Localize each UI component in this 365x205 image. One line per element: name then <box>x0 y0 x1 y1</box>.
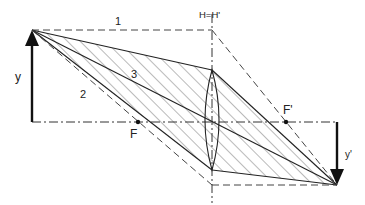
object-arrow <box>25 30 39 122</box>
image-arrow <box>330 122 344 185</box>
ray-3-label: 3 <box>131 68 137 80</box>
front-focal-point <box>136 120 140 124</box>
back-focal-point <box>284 120 288 124</box>
ray-1-label: 1 <box>115 15 121 27</box>
lens-ray-diagram: H=H' 1 2 3 y y' F F' <box>0 0 365 205</box>
image-height-label: y' <box>345 149 352 160</box>
object-height-label: y <box>15 70 21 84</box>
ray-2-label: 2 <box>80 88 86 100</box>
back-focus-label: F' <box>283 103 293 117</box>
principal-plane-label: H=H' <box>199 9 220 20</box>
front-focus-label: F <box>130 127 137 141</box>
